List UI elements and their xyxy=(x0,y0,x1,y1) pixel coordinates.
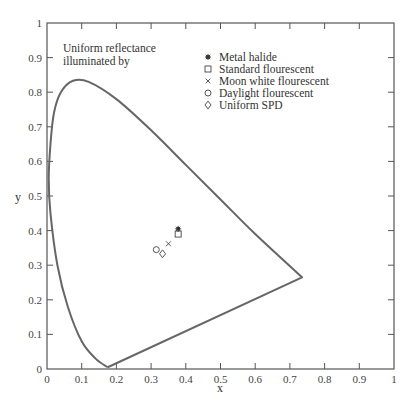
y-tick-label: 0.1 xyxy=(28,328,42,340)
y-tick-label: 0.2 xyxy=(28,294,42,306)
locus-outline xyxy=(49,79,302,367)
legend-item: Uniform SPD xyxy=(205,99,283,111)
annotation-line-2: illuminated by xyxy=(63,55,130,68)
y-tick-label: 0.3 xyxy=(28,259,42,271)
x-tick-label: 0.6 xyxy=(248,373,262,385)
x-tick-label: 0.2 xyxy=(110,373,124,385)
x-tick-label: 0.4 xyxy=(179,373,193,385)
x-tick-label: 1 xyxy=(391,373,397,385)
y-tick-label: 0.7 xyxy=(28,121,42,133)
legend-label: Standard flourescent xyxy=(219,63,315,75)
data-point-square xyxy=(175,231,181,237)
x-tick-label: 0 xyxy=(44,373,50,385)
chromaticity-chart: 00.10.20.30.40.50.60.70.80.9100.10.20.30… xyxy=(0,0,412,409)
data-points xyxy=(153,226,181,258)
axis-ticks: 00.10.20.30.40.50.60.70.80.9100.10.20.30… xyxy=(28,17,397,385)
x-axis-title: x xyxy=(217,381,223,395)
legend-label: Moon white flourescent xyxy=(219,75,330,87)
data-point-diamond xyxy=(160,250,166,258)
legend-item: Moon white flourescent xyxy=(206,75,330,87)
y-tick-label: 0.5 xyxy=(28,190,42,202)
data-point-x xyxy=(166,241,171,246)
spectral-locus xyxy=(49,79,302,367)
x-tick-label: 0.7 xyxy=(283,373,297,385)
x-tick-label: 0.1 xyxy=(75,373,89,385)
y-tick-label: 0.8 xyxy=(28,86,42,98)
x-tick-label: 0.8 xyxy=(318,373,332,385)
y-tick-label: 0.9 xyxy=(28,52,42,64)
y-axis-title: y xyxy=(15,190,21,204)
legend-label: Metal halide xyxy=(219,51,277,63)
y-tick-label: 0 xyxy=(37,363,43,375)
legend-item: Standard flourescent xyxy=(205,63,315,75)
annotation-line-1: Uniform reflectance xyxy=(63,42,156,54)
legend-label: Uniform SPD xyxy=(219,99,283,111)
x-tick-label: 0.9 xyxy=(352,373,366,385)
x-tick-label: 0.3 xyxy=(144,373,158,385)
legend: Metal halideStandard flourescentMoon whi… xyxy=(205,51,330,111)
y-tick-label: 0.4 xyxy=(28,225,42,237)
data-point-circle xyxy=(153,247,159,253)
y-tick-label: 1 xyxy=(37,17,43,29)
y-tick-label: 0.6 xyxy=(28,155,42,167)
legend-item: Metal halide xyxy=(205,51,277,63)
